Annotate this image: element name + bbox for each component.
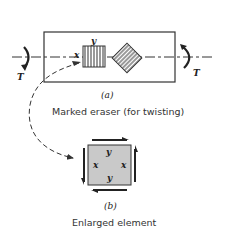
marked-diamond	[112, 43, 142, 73]
part-a-label: (a)	[101, 90, 114, 100]
twisting-eraser-diagram: y x T T (a) Marked eraser (for twisting)…	[0, 0, 229, 232]
part-a-caption: Marked eraser (for twisting)	[52, 106, 184, 117]
enlarged-element-part-b: y x x y (b) Enlarged element	[72, 137, 157, 228]
torque-label-right: T	[193, 68, 201, 78]
element-label-bottom: y	[106, 173, 113, 183]
part-b-label: (b)	[104, 201, 117, 211]
element-label-top: y	[105, 147, 112, 157]
element-label-left: x	[92, 160, 99, 170]
marked-square	[83, 46, 105, 67]
axis-label-x: x	[73, 50, 80, 60]
torque-label-left: T	[17, 72, 25, 82]
eraser-part-a: y x T T (a) Marked eraser (for twisting)	[12, 32, 215, 117]
part-b-caption: Enlarged element	[72, 217, 157, 228]
axis-label-y: y	[90, 36, 97, 46]
element-label-right: x	[120, 160, 127, 170]
